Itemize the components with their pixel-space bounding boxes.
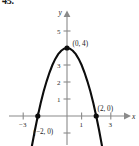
x-tick-label--3: −3 <box>19 121 27 129</box>
y-tick-label-3: 3 <box>57 62 61 70</box>
vertex-point <box>64 45 69 50</box>
y-tick-label-2: 2 <box>57 79 61 87</box>
right-intercept-label: (2, 0) <box>98 105 114 113</box>
y-axis-label: y <box>58 8 63 17</box>
left-intercept-label: (−2, 0) <box>34 128 54 136</box>
x-tick-label-1: 1 <box>80 121 84 129</box>
parabola-graph: y x −3 1 3 1 2 3 5 (0, 4) (−2, 0) (2, 0) <box>0 0 139 146</box>
vertex-label: (0, 4) <box>73 40 89 48</box>
y-tick-label-5: 5 <box>57 28 61 36</box>
figure-panel: 45. y <box>0 0 139 146</box>
y-tick-label-1: 1 <box>57 96 61 104</box>
x-axis-label: x <box>131 112 136 121</box>
x-tick-label-3: 3 <box>109 121 113 129</box>
left-intercept-point <box>35 113 40 118</box>
y-axis-arrowhead <box>64 11 71 18</box>
right-intercept-point <box>94 113 99 118</box>
graph-svg: y x −3 1 3 1 2 3 5 (0, 4) (−2, 0) (2, 0) <box>0 0 139 146</box>
x-axis-arrowhead <box>124 113 131 120</box>
